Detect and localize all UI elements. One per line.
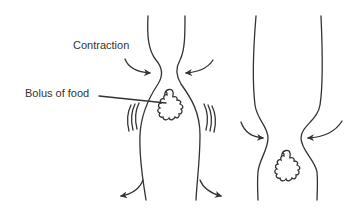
push-arrow-right (200, 180, 221, 196)
bolus-leader-line (99, 96, 166, 103)
motion-lines-left (128, 103, 139, 131)
contraction-arrow-right-2 (308, 121, 342, 138)
label-bolus-of-food: Bolus of food (25, 87, 89, 99)
tube-left-wall-2 (253, 16, 268, 200)
bolus-right (275, 150, 300, 180)
contraction-arrow-left-2 (241, 122, 263, 138)
label-contraction: Contraction (73, 39, 129, 51)
bolus-left (158, 89, 183, 119)
tube-right-wall-2 (301, 16, 322, 200)
push-arrow-left (121, 180, 143, 196)
diagram-drawing (0, 0, 360, 213)
tube-left-wall-1 (140, 16, 162, 200)
contraction-arrow-left-1 (125, 59, 150, 73)
contraction-arrow-right-1 (186, 60, 213, 73)
motion-lines-right (204, 104, 215, 132)
peristalsis-diagram: Contraction Bolus of food (0, 0, 360, 213)
tube-right-wall-1 (177, 16, 200, 200)
